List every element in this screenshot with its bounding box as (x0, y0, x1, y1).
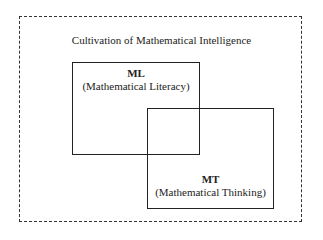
mt-full: (Mathematical Thinking) (155, 186, 266, 198)
mt-abbr: MT (147, 173, 274, 186)
mt-label: MT (Mathematical Thinking) (147, 173, 274, 199)
ml-label: ML (Mathematical Literacy) (72, 67, 200, 93)
ml-full: (Mathematical Literacy) (82, 80, 189, 92)
ml-abbr: ML (72, 67, 200, 80)
diagram-title: Cultivation of Mathematical Intelligence (0, 34, 323, 46)
